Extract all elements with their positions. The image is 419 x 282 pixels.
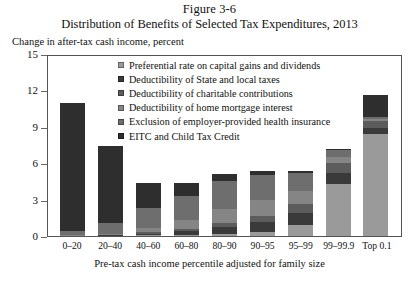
bar-segment: [60, 235, 85, 236]
bar-segment: [136, 235, 161, 236]
bar-segment: [174, 220, 199, 228]
x-axis-tick-label: 99–99.9: [320, 240, 358, 251]
bar-segment: [98, 146, 123, 222]
bar-segment: [98, 235, 123, 236]
y-axis-tick-label: 6: [5, 157, 47, 169]
legend-swatch-icon: [118, 62, 124, 68]
legend-swatch-icon: [118, 90, 124, 96]
bar-segment: [363, 95, 388, 117]
figure-number: Figure 3-6: [0, 2, 419, 17]
legend-item: Deductibility of home mortgage interest: [118, 101, 330, 115]
y-axis-tick-label: 15: [5, 48, 47, 60]
chart-legend: Preferential rate on capital gains and d…: [118, 58, 330, 143]
y-axis-tick-label: 3: [5, 194, 47, 206]
bar-segment: [363, 121, 388, 128]
legend-label: EITC and Child Tax Credit: [129, 131, 240, 142]
legend-item: Deductibility of charitable contribution…: [118, 86, 330, 100]
bar-segment: [212, 209, 237, 222]
legend-label: Exclusion of employer-provided health in…: [129, 116, 330, 127]
y-axis-title: Change in after-tax cash income, percent: [12, 36, 184, 47]
bar-segment: [363, 134, 388, 236]
legend-item: EITC and Child Tax Credit: [118, 129, 330, 143]
legend-item: Deductibility of State and local taxes: [118, 72, 330, 86]
bar-segment: [136, 208, 161, 227]
y-axis-tick-label: 9: [5, 121, 47, 133]
legend-swatch-icon: [118, 76, 124, 82]
bar-segment: [288, 191, 313, 204]
bar-segment: [212, 234, 237, 236]
x-axis-tick-label: 80–90: [205, 240, 243, 251]
bar-segment: [98, 223, 123, 234]
x-axis-tick-label: 40–60: [129, 240, 167, 251]
legend-label: Deductibility of charitable contribution…: [129, 88, 293, 99]
bar-segment: [136, 183, 161, 208]
legend-swatch-icon: [118, 133, 124, 139]
legend-item: Exclusion of employer-provided health in…: [118, 115, 330, 129]
bar-segment: [250, 232, 275, 236]
y-axis-tick-label: 12: [5, 84, 47, 96]
bar-segment: [212, 181, 237, 209]
x-axis-tick-label: Top 0.1: [358, 240, 396, 251]
bar-segment: [288, 204, 313, 212]
figure-title-block: Figure 3-6 Distribution of Benefits of S…: [0, 2, 419, 32]
x-axis-tick-label: 95–99: [282, 240, 320, 251]
legend-label: Preferential rate on capital gains and d…: [129, 60, 320, 71]
bar-0-20: [60, 56, 85, 236]
x-axis-tick-label: 0–20: [53, 240, 91, 251]
bar-Top-0.1: [363, 56, 388, 236]
figure-root: Figure 3-6 Distribution of Benefits of S…: [0, 0, 419, 282]
bar-segment: [212, 227, 237, 234]
bar-segment: [250, 175, 275, 200]
bar-segment: [288, 225, 313, 236]
x-axis-title: Pre-tax cash income percentile adjusted …: [0, 258, 419, 269]
bar-segment: [326, 173, 351, 184]
x-axis-tick-label: 60–80: [167, 240, 205, 251]
bar-segment: [174, 235, 199, 236]
legend-label: Deductibility of home mortgage interest: [129, 102, 293, 113]
bar-segment: [288, 213, 313, 225]
bar-segment: [250, 200, 275, 216]
figure-title: Distribution of Benefits of Selected Tax…: [0, 17, 419, 32]
bar-segment: [326, 163, 351, 173]
bar-segment: [250, 222, 275, 232]
bar-segment: [212, 174, 237, 181]
x-axis-tick-labels: 0–2020–4040–6060–8080–9090–9595–9999–99.…: [47, 240, 402, 251]
legend-item: Preferential rate on capital gains and d…: [118, 58, 330, 72]
bar-segment: [60, 103, 85, 232]
x-axis-tick-label: 90–95: [244, 240, 282, 251]
x-axis-tick-label: 20–40: [91, 240, 129, 251]
bar-segment: [326, 150, 351, 157]
legend-label: Deductibility of State and local taxes: [129, 74, 280, 85]
bar-segment: [326, 184, 351, 236]
legend-swatch-icon: [118, 105, 124, 111]
y-axis-tick-label: 0: [5, 230, 47, 242]
bar-segment: [174, 183, 199, 196]
bar-segment: [288, 173, 313, 191]
legend-swatch-icon: [118, 119, 124, 125]
bar-segment: [174, 196, 199, 220]
